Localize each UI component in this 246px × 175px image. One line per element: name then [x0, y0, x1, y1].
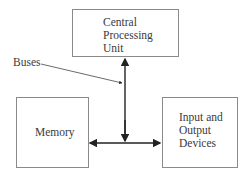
- cpu-label-line-1: Central: [103, 16, 137, 29]
- memory-box: Memory: [16, 97, 89, 168]
- io-box: Input and Output Devices: [162, 97, 238, 168]
- cpu-label-line-2: Processing: [103, 29, 153, 42]
- buses-callout-label: Buses: [13, 56, 40, 69]
- io-label-line-1: Input and: [179, 111, 223, 124]
- buses-leader-line: [41, 64, 122, 83]
- cpu-box: Central Processing Unit: [72, 9, 179, 57]
- cpu-label-line-3: Unit: [103, 42, 123, 55]
- io-label-line-3: Devices: [179, 137, 216, 150]
- io-label-line-2: Output: [179, 124, 211, 137]
- memory-label: Memory: [35, 126, 75, 139]
